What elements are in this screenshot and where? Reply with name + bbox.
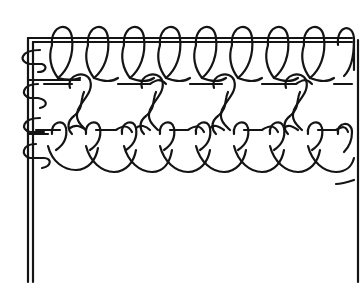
left-frame-double-line bbox=[28, 38, 33, 282]
top-loop-row bbox=[50, 27, 354, 81]
netting-illustration bbox=[0, 0, 363, 290]
right-frame-line bbox=[354, 40, 358, 282]
end-dash-mark bbox=[336, 180, 354, 184]
